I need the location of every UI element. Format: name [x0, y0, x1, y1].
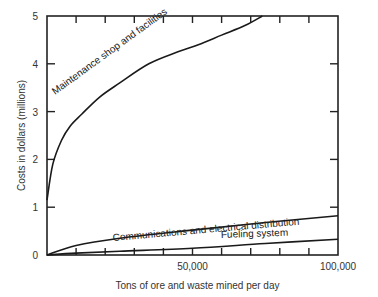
x-tick-label: 50,000: [177, 261, 208, 272]
y-tick-label: 2: [32, 154, 38, 165]
series-label: Maintenance shop and facilities: [50, 6, 169, 97]
y-axis-label: Costs in dollars (millions): [16, 80, 27, 191]
x-axis-label: Tons of ore and waste mined per day: [116, 280, 280, 291]
series-label: Fueling system: [221, 227, 289, 240]
series-line-0: [47, 16, 262, 200]
y-tick-label: 1: [32, 202, 38, 213]
y-tick-label: 4: [32, 59, 38, 70]
y-tick-label: 3: [32, 107, 38, 118]
chart: 01234550,000100,000Tons of ore and waste…: [0, 0, 378, 297]
y-tick-label: 0: [32, 250, 38, 261]
y-tick-label: 5: [32, 11, 38, 22]
x-tick-label: 100,000: [320, 261, 357, 272]
